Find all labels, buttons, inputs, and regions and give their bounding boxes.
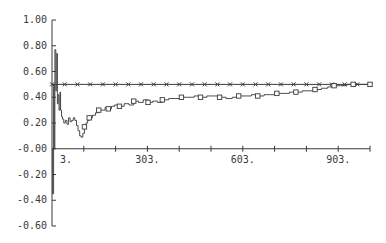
estimate-series (52, 50, 372, 194)
chart: 1.000.800.600.400.20-0.00-0.20-0.40-0.60… (0, 0, 386, 243)
square-marker (236, 94, 240, 98)
square-marker (82, 125, 86, 129)
x-tick-label: 303. (135, 154, 159, 165)
square-marker (368, 82, 372, 86)
y-tick-label: -0.40 (17, 194, 47, 205)
square-marker (132, 99, 136, 103)
square-marker (275, 91, 279, 95)
reference-series (50, 82, 372, 86)
series-layer (50, 50, 372, 194)
square-marker (160, 98, 164, 102)
square-marker (294, 90, 298, 94)
square-marker (217, 95, 221, 99)
y-tick-label: -0.20 (17, 169, 47, 180)
y-axis: 1.000.800.600.400.20-0.00-0.20-0.40-0.60 (17, 14, 56, 231)
x-axis: 3.303.603.903. (52, 146, 370, 165)
square-marker (117, 104, 121, 108)
square-marker (198, 95, 202, 99)
y-tick-label: -0.60 (17, 220, 47, 231)
x-tick-label: 603. (231, 154, 255, 165)
square-marker (313, 87, 317, 91)
square-marker (106, 107, 110, 111)
x-tick-label: 903. (326, 154, 350, 165)
square-marker (146, 100, 150, 104)
square-marker (87, 116, 91, 120)
square-marker (256, 94, 260, 98)
square-marker (179, 95, 183, 99)
y-tick-label: 0.80 (23, 40, 47, 51)
x-tick-label: 3. (60, 154, 72, 165)
y-tick-label: 0.20 (23, 117, 47, 128)
y-tick-label: 1.00 (23, 14, 47, 25)
square-marker (332, 83, 336, 87)
y-tick-label: 0.60 (23, 66, 47, 77)
square-marker (351, 82, 355, 86)
y-tick-label: -0.00 (17, 143, 47, 154)
series-line (52, 50, 370, 194)
y-tick-label: 0.40 (23, 91, 47, 102)
square-marker (97, 108, 101, 112)
